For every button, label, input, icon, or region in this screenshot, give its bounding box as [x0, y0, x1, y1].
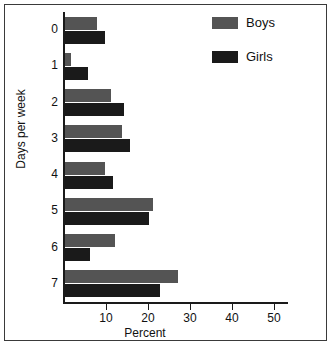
x-tick-label-40: 40 [217, 311, 247, 325]
x-tick-30 [190, 304, 191, 310]
bar-boys-7 [65, 270, 178, 283]
bar-girls-2 [65, 103, 124, 116]
x-axis-line [63, 302, 288, 304]
y-tick-label-2: 2 [36, 95, 58, 109]
y-tick-label-4: 4 [36, 167, 58, 181]
x-tick-10 [106, 304, 107, 310]
legend-label-boys: Boys [246, 14, 275, 32]
bar-girls-4 [65, 176, 113, 189]
bar-boys-4 [65, 162, 105, 175]
bar-boys-0 [65, 17, 97, 30]
bar-boys-5 [65, 198, 153, 211]
y-tick-label-3: 3 [36, 131, 58, 145]
x-tick-50 [274, 304, 275, 310]
y-tick-label-7: 7 [36, 276, 58, 290]
x-tick-label-50: 50 [259, 311, 289, 325]
bar-girls-0 [65, 31, 105, 44]
chart-figure: 1020304050 01234567 Percent Days per wee… [0, 0, 331, 345]
bar-girls-5 [65, 212, 149, 225]
legend-swatch-girls [212, 51, 238, 63]
x-tick-40 [232, 304, 233, 310]
legend-swatch-boys [212, 17, 238, 29]
bar-boys-1 [65, 53, 71, 66]
legend-entry-girls: Girls [212, 48, 304, 82]
bar-boys-2 [65, 89, 111, 102]
y-tick-label-0: 0 [36, 22, 58, 36]
bar-boys-6 [65, 234, 115, 247]
y-axis-label-wrapper: Days per week [12, 64, 30, 194]
bar-girls-3 [65, 139, 130, 152]
x-tick-label-30: 30 [175, 311, 205, 325]
bar-girls-6 [65, 248, 90, 261]
bar-girls-1 [65, 67, 88, 80]
x-tick-20 [148, 304, 149, 310]
x-axis-label: Percent [0, 326, 290, 340]
y-tick-label-6: 6 [36, 240, 58, 254]
y-axis-label: Days per week [12, 64, 30, 194]
x-tick-label-20: 20 [133, 311, 163, 325]
y-tick-label-1: 1 [36, 58, 58, 72]
legend-label-girls: Girls [246, 48, 273, 66]
chart-legend: Boys Girls [212, 14, 304, 82]
legend-entry-boys: Boys [212, 14, 304, 48]
y-tick-label-5: 5 [36, 203, 58, 217]
bar-boys-3 [65, 125, 122, 138]
x-tick-label-10: 10 [91, 311, 121, 325]
bar-girls-7 [65, 284, 160, 297]
